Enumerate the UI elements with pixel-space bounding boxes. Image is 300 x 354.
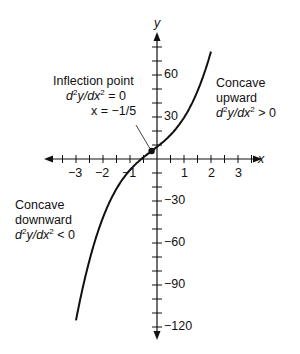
y-tick-label: 30 — [164, 109, 178, 124]
y-tick-label: −30 — [164, 193, 185, 208]
y-tick-label: 60 — [164, 67, 178, 82]
y-tick-label: −60 — [164, 235, 185, 250]
x-tick-label: −3 — [68, 166, 82, 181]
concave-upward-label: Concave upward d2y/dx2 > 0 — [216, 76, 276, 121]
inflection-label: Inflection point d2y/dx2 = 0 x = −1/5 — [53, 74, 136, 119]
y-axis-label: y — [154, 16, 160, 31]
leader-line — [136, 125, 150, 148]
x-tick-label: 3 — [235, 166, 242, 181]
y-axis-down-arrow-icon — [154, 331, 161, 340]
x-axis-label: x — [258, 152, 264, 167]
x-tick-label: 2 — [208, 166, 215, 181]
y-tick-label: −120 — [164, 319, 192, 334]
inflection-point-marker — [148, 148, 154, 154]
x-tick-label: −1 — [122, 166, 136, 181]
x-tick-label: −2 — [95, 166, 109, 181]
y-tick-label: −90 — [164, 277, 185, 292]
x-tick-label: 1 — [181, 166, 188, 181]
y-axis-up-arrow-icon — [154, 32, 161, 41]
concave-downward-label: Concave downward d2y/dx2 < 0 — [15, 198, 75, 243]
chart-canvas — [0, 0, 300, 354]
x-axis-left-arrow-icon — [44, 156, 53, 163]
